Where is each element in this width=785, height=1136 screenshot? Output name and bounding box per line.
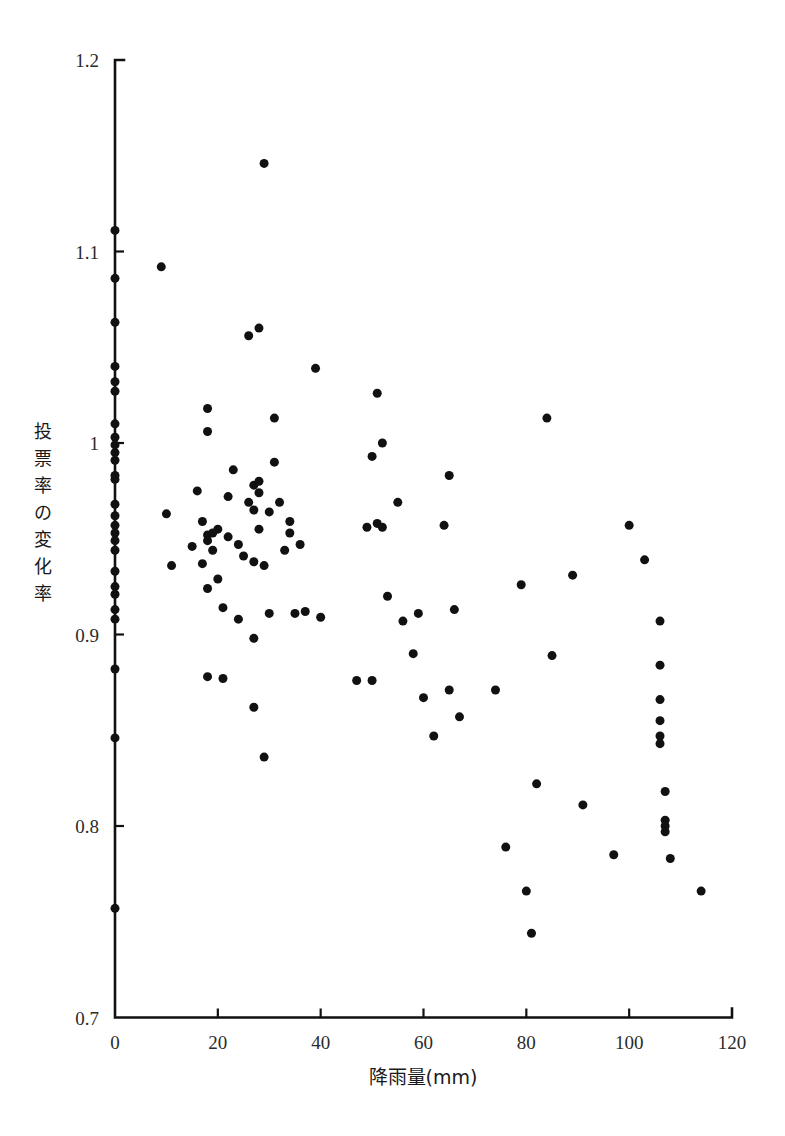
x-tick-label-0: 0 (110, 1032, 120, 1053)
data-point (578, 800, 587, 809)
y-axis-title-char: 投 (30, 418, 56, 445)
data-point (111, 456, 120, 465)
data-point (198, 559, 207, 568)
data-point (111, 605, 120, 614)
data-point (244, 498, 253, 507)
data-point (697, 887, 706, 896)
data-point (249, 506, 258, 515)
data-point (532, 779, 541, 788)
data-point (445, 686, 454, 695)
data-point (111, 615, 120, 624)
data-point (111, 582, 120, 591)
data-point (254, 324, 263, 333)
data-point (254, 525, 263, 534)
data-point (198, 517, 207, 526)
data-point (111, 590, 120, 599)
data-points-group (111, 159, 706, 938)
data-point (111, 362, 120, 371)
data-point (373, 389, 382, 398)
data-point (249, 703, 258, 712)
data-point (162, 509, 171, 518)
data-point (249, 557, 258, 566)
data-point (280, 546, 289, 555)
data-point (111, 567, 120, 576)
x-tick-label-120: 120 (718, 1032, 747, 1053)
data-point (548, 651, 557, 660)
data-point (656, 731, 665, 740)
data-point (218, 603, 227, 612)
data-point (254, 477, 263, 486)
data-point (640, 555, 649, 564)
y-axis-title-char: 変 (30, 526, 56, 553)
y-tick-label-0.7: 0.7 (75, 1008, 99, 1029)
y-tick-labels: 0.70.80.911.11.2 (75, 50, 99, 1029)
data-point (666, 854, 675, 863)
data-point (352, 676, 361, 685)
data-point (429, 731, 438, 740)
data-point (414, 609, 423, 618)
data-point (203, 427, 212, 436)
data-point (398, 617, 407, 626)
x-axis-title: 降雨量(mm) (369, 1066, 478, 1088)
y-tick-label-0.8: 0.8 (75, 816, 99, 837)
data-point (656, 695, 665, 704)
y-axis-title: 投票率の変化率 (30, 418, 56, 607)
y-axis-title-char: の (30, 499, 56, 526)
data-point (656, 716, 665, 725)
x-tick-label-40: 40 (311, 1032, 330, 1053)
data-point (111, 448, 120, 457)
y-axis-title-char: 率 (30, 580, 56, 607)
data-point (440, 521, 449, 530)
x-tick-label-20: 20 (208, 1032, 227, 1053)
data-point (311, 364, 320, 373)
data-point (522, 887, 531, 896)
data-point (265, 507, 274, 516)
data-point (383, 592, 392, 601)
x-tick-labels: 020406080100120 (110, 1032, 746, 1053)
data-point (260, 753, 269, 762)
data-point (265, 609, 274, 618)
data-point (527, 929, 536, 938)
data-point (568, 571, 577, 580)
data-point (362, 523, 371, 532)
data-point (296, 540, 305, 549)
data-point (111, 511, 120, 520)
data-point (239, 551, 248, 560)
data-point (501, 843, 510, 852)
x-tick-marks (218, 1009, 629, 1018)
data-point (111, 274, 120, 283)
data-point (542, 414, 551, 423)
data-point (409, 649, 418, 658)
data-point (517, 580, 526, 589)
data-point (218, 674, 227, 683)
data-point (285, 529, 294, 538)
data-point (625, 521, 634, 530)
data-point (270, 458, 279, 467)
data-point (167, 561, 176, 570)
data-point (285, 517, 294, 526)
data-point (419, 693, 428, 702)
data-point (111, 318, 120, 327)
data-point (111, 419, 120, 428)
x-tick-label-60: 60 (414, 1032, 433, 1053)
y-axis-title-char: 率 (30, 472, 56, 499)
data-point (260, 159, 269, 168)
data-point (368, 452, 377, 461)
data-point (244, 331, 253, 340)
data-point (270, 414, 279, 423)
data-point (234, 615, 243, 624)
scatter-plot-canvas: 020406080100120 0.70.80.911.11.2 降雨量(mm) (0, 0, 785, 1136)
data-point (234, 540, 243, 549)
data-point (224, 532, 233, 541)
data-point (111, 377, 120, 386)
data-point (213, 574, 222, 583)
data-point (224, 492, 233, 501)
data-point (260, 561, 269, 570)
data-point (188, 542, 197, 551)
x-tick-label-100: 100 (615, 1032, 644, 1053)
data-point (393, 498, 402, 507)
data-point (111, 536, 120, 545)
data-point (111, 529, 120, 538)
x-tick-label-80: 80 (517, 1032, 536, 1053)
data-point (111, 904, 120, 913)
